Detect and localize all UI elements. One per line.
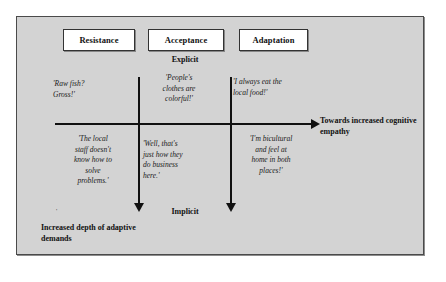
quote-line: problems.': [55, 176, 131, 187]
quote-line: colorful!': [143, 94, 215, 105]
vertical-axis-caption: Increased depth of adaptive demands: [41, 222, 161, 244]
category-box-adaptation[interactable]: Adaptation: [239, 29, 308, 51]
quote-line: clothes are: [143, 84, 215, 95]
quote-adaptation-explicit: 'I always eat the local food!': [233, 77, 315, 98]
horizontal-axis-caption: Towards increased cognitive empathy: [320, 115, 420, 137]
quote-line: local food!': [233, 88, 315, 99]
axis-label-implicit: Implicit: [148, 207, 222, 216]
quote-line: know how to: [55, 155, 131, 166]
horizontal-axis-caption-line-1: Towards increased: [320, 116, 384, 125]
category-label-adaptation: Adaptation: [252, 35, 294, 45]
quote-line: 'I always eat the: [233, 77, 315, 88]
vertical-axis-arrow-left: [138, 77, 140, 203]
quote-resistance-implicit: 'The local staff doesn't know how to sol…: [55, 134, 131, 187]
quote-line: 'Well, that's: [143, 139, 217, 150]
quote-line: just how they: [143, 150, 217, 161]
quote-line: 'The local: [55, 134, 131, 145]
category-box-resistance[interactable]: Resistance: [63, 29, 135, 51]
quote-line: Gross!': [53, 90, 129, 101]
quote-line: 'I'm bicultural: [229, 134, 313, 145]
quote-line: here.': [143, 171, 217, 182]
scan-artifact-mark: ': [56, 207, 57, 215]
quote-line: 'People's: [143, 73, 215, 84]
category-label-resistance: Resistance: [79, 35, 118, 45]
quote-line: and feel at: [229, 145, 313, 156]
quote-line: solve: [55, 166, 131, 177]
quote-line: staff doesn't: [55, 145, 131, 156]
quote-adaptation-implicit: 'I'm bicultural and feel at home in both…: [229, 134, 313, 176]
quote-line: do business: [143, 160, 217, 171]
quote-acceptance-explicit: 'People's clothes are colorful!': [143, 73, 215, 105]
screenshot-root: Resistance Acceptance Adaptation Explici…: [0, 0, 446, 282]
horizontal-axis-arrow: [55, 123, 311, 125]
quote-resistance-explicit: 'Raw fish? Gross!': [53, 79, 129, 100]
category-label-acceptance: Acceptance: [165, 35, 208, 45]
diagram-canvas: Resistance Acceptance Adaptation Explici…: [16, 16, 424, 255]
quote-line: home in both: [229, 155, 313, 166]
vertical-axis-caption-line-1: Increased depth of: [41, 223, 104, 232]
quote-line: 'Raw fish?: [53, 79, 129, 90]
axis-label-explicit: Explicit: [148, 55, 222, 64]
quote-acceptance-implicit: 'Well, that's just how they do business …: [143, 139, 217, 181]
category-box-acceptance[interactable]: Acceptance: [148, 29, 224, 51]
quote-line: places!': [229, 166, 313, 177]
